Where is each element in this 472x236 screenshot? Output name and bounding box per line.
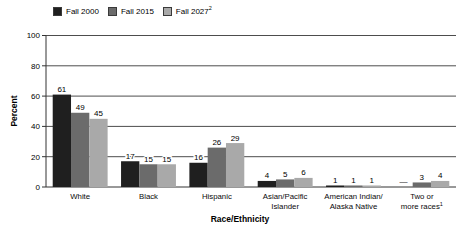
category-label-1: Black — [139, 192, 158, 201]
y-tick-label-40: 40 — [31, 122, 40, 131]
legend-item-fall-2000: Fall 2000 — [53, 7, 99, 16]
bar-value-fall-2015-3: 5 — [283, 170, 288, 179]
legend-label-fall-2015: Fall 2015 — [121, 7, 154, 16]
bar-fall-2000-0 — [53, 95, 71, 187]
bar-fall-2027-3 — [294, 178, 312, 187]
bar-fall-2000-2 — [189, 163, 207, 187]
bar-fall-2027-5 — [431, 181, 449, 187]
bar-value-fall-2000-0: 61 — [57, 85, 66, 94]
bar-fall-2000-3 — [258, 181, 276, 187]
bar-fall-2015-4 — [344, 185, 362, 187]
bar-fall-2015-1 — [139, 164, 157, 187]
bar-value-fall-2000-1: 17 — [126, 152, 135, 161]
bar-value-fall-2027-3: 6 — [301, 168, 306, 177]
bar-fall-2000-4 — [326, 185, 344, 187]
bar-value-fall-2000-4: 1 — [333, 176, 338, 185]
legend-label-text: Fall 2027 — [176, 7, 209, 16]
legend-item-fall-2015: Fall 2015 — [108, 7, 154, 16]
legend-swatch-fall-2027 — [163, 7, 172, 16]
bar-value-fall-2027-0: 45 — [94, 109, 103, 118]
legend-label-text: Fall 2015 — [121, 7, 154, 16]
y-tick-label-80: 80 — [31, 62, 40, 71]
legend-item-fall-2027: Fall 20272 — [163, 7, 212, 16]
legend-swatch-fall-2015 — [108, 7, 117, 16]
bar-fall-2015-2 — [208, 148, 226, 187]
category-label-5: Two ormore races1 — [401, 192, 443, 211]
bar-value-fall-2015-4: 1 — [351, 176, 356, 185]
bar-fall-2027-2 — [226, 143, 244, 187]
bar-value-fall-2027-2: 29 — [231, 134, 240, 143]
bar-fall-2027-0 — [89, 119, 107, 187]
y-axis-title: Percent — [9, 95, 19, 126]
legend-label-text: Fall 2000 — [66, 7, 99, 16]
bar-value-fall-2015-2: 26 — [212, 138, 221, 147]
x-axis-title: Race/Ethnicity — [30, 214, 450, 224]
legend-label-fall-2027: Fall 20272 — [176, 7, 212, 16]
bar-chart-figure: 02040608010061171641—491526513451529614W… — [0, 0, 472, 236]
bar-chart-canvas: 02040608010061171641—491526513451529614W… — [0, 0, 472, 236]
bar-fall-2015-5 — [413, 182, 431, 187]
bar-value-fall-2000-3: 4 — [265, 171, 270, 180]
missing-marker-fall-2000-5: — — [400, 177, 408, 186]
bar-value-fall-2027-4: 1 — [370, 176, 375, 185]
category-label-2: Hispanic — [202, 192, 232, 201]
y-tick-label-60: 60 — [31, 92, 40, 101]
y-tick-label-0: 0 — [36, 183, 41, 192]
bar-value-fall-2027-5: 4 — [438, 171, 443, 180]
bar-value-fall-2015-5: 3 — [420, 173, 425, 182]
y-tick-label-100: 100 — [27, 31, 41, 40]
bar-fall-2015-3 — [276, 179, 294, 187]
bar-fall-2027-1 — [158, 164, 176, 187]
category-label-3: Asian/PacificIslander — [263, 192, 308, 211]
legend-swatch-fall-2000 — [53, 7, 62, 16]
bar-value-fall-2000-2: 16 — [194, 153, 203, 162]
legend: Fall 2000 Fall 2015 Fall 20272 — [53, 7, 212, 16]
legend-label-sup: 2 — [209, 5, 212, 11]
legend-label-fall-2000: Fall 2000 — [66, 7, 99, 16]
bar-value-fall-2015-0: 49 — [76, 103, 85, 112]
category-label-4: American Indian/Alaska Native — [324, 192, 383, 211]
bar-value-fall-2027-1: 15 — [162, 155, 171, 164]
bar-value-fall-2015-1: 15 — [144, 155, 153, 164]
category-label-0: White — [70, 192, 90, 201]
y-tick-label-20: 20 — [31, 153, 40, 162]
bar-fall-2015-0 — [71, 113, 89, 187]
bar-fall-2000-1 — [121, 161, 139, 187]
bar-fall-2027-4 — [363, 185, 381, 187]
